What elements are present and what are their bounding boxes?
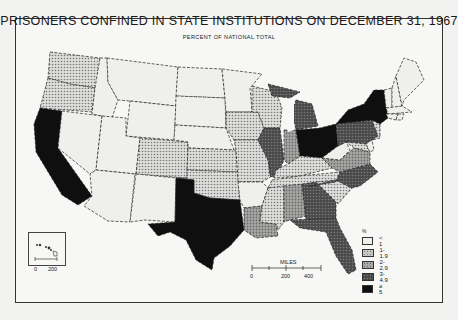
inset-scale-200: 200 [48, 266, 57, 272]
hawaii-islands [29, 233, 65, 265]
state-az [84, 170, 135, 222]
legend-item-ge5: ≥ 5 [362, 284, 385, 294]
legend-label: 1-1.9 [380, 247, 391, 259]
state-ks [187, 148, 238, 172]
legend-unit: % [362, 228, 366, 234]
legend-swatch [362, 249, 374, 257]
legend-label: ≥ 5 [379, 283, 385, 295]
state-sd [175, 96, 226, 128]
state-co [136, 138, 188, 178]
state-nd [176, 67, 225, 98]
state-ny [336, 90, 388, 124]
scale-tick-0: 0 [250, 273, 253, 279]
inset-scale-0: 0 [34, 266, 37, 272]
legend-item-1-1.9: 1-1.9 [362, 248, 390, 258]
state-nm [130, 174, 176, 222]
legend-item-2-2.9: 2-2.9 [362, 260, 390, 270]
state-ia [226, 112, 264, 140]
legend-item-lt1: < 1 [362, 236, 386, 246]
legend-swatch [362, 261, 374, 269]
scale-title: MILES [280, 259, 297, 265]
scale-bar [252, 265, 321, 271]
scale-tick-400: 400 [304, 273, 313, 279]
hawaii-inset [28, 232, 66, 266]
legend-label: < 1 [379, 235, 385, 247]
legend-swatch [362, 285, 373, 293]
state-mt [107, 58, 178, 106]
scale-tick-200: 200 [281, 273, 290, 279]
state-fl [290, 218, 356, 274]
legend-label: 3-4.9 [380, 271, 391, 283]
state-wy [126, 101, 176, 140]
legend-swatch [362, 273, 374, 281]
legend-label: 2-2.9 [380, 259, 391, 271]
legend-item-3-4.9: 3-4.9 [362, 272, 390, 282]
lake-michigan [284, 98, 294, 132]
legend-swatch [362, 237, 373, 245]
